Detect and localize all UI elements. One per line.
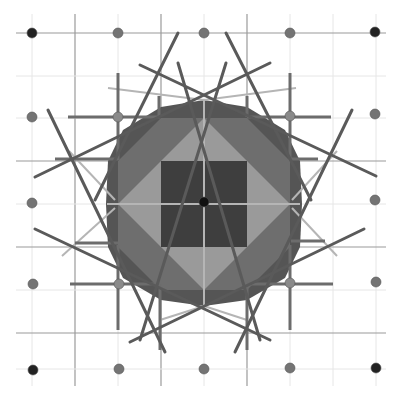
- lattice-dot-edge: [114, 364, 124, 374]
- lattice-dot-edge: [28, 279, 38, 289]
- lattice-dot-corner: [28, 365, 38, 375]
- lattice-dot-corner: [370, 27, 380, 37]
- lattice-dot-edge: [370, 109, 380, 119]
- lattice-dot-inner: [285, 111, 295, 121]
- lattice-dot-edge: [27, 198, 37, 208]
- lattice-dot-edge: [285, 363, 295, 373]
- lattice-dot-edge: [371, 277, 381, 287]
- lattice-dot-inner: [285, 278, 295, 288]
- lattice-dot-edge: [199, 28, 209, 38]
- lattice-dot-corner: [27, 28, 37, 38]
- lattice-dot-edge: [370, 195, 380, 205]
- lattice-dot-edge: [199, 364, 209, 374]
- lattice-dot-corner: [371, 363, 381, 373]
- lattice-dot-edge: [285, 28, 295, 38]
- lattice-dot-inner: [114, 279, 124, 289]
- lattice-dot-inner: [113, 112, 123, 122]
- lattice-dot-edge: [113, 28, 123, 38]
- lattice-dot-center: [199, 197, 209, 207]
- lattice-dot-edge: [27, 112, 37, 122]
- geometry-diagram: [0, 0, 401, 395]
